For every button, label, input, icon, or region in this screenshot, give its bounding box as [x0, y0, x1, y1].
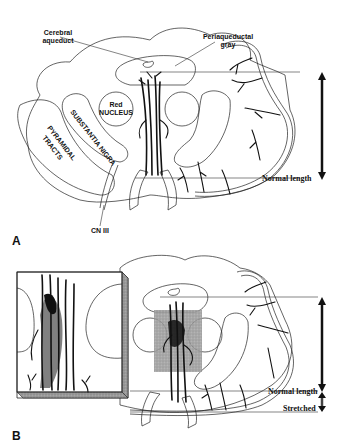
normal-length-arrow-b — [318, 297, 326, 392]
cerebral-aqueduct-shape — [143, 61, 153, 67]
cn-iii-nerve — [100, 165, 118, 210]
red-nucleus-label-1: Red — [109, 101, 122, 108]
cn-iii-pointer — [100, 205, 104, 226]
cerebral-aqueduct-shape-b — [168, 288, 179, 295]
substantia-nigra-right — [174, 91, 230, 167]
red-nucleus-right — [165, 92, 199, 126]
periaqueductal-label-1: Periaqueductal — [203, 33, 253, 41]
substantia-nigra-label: SUBSTANTIA NIGRA — [69, 108, 117, 167]
normal-length-arrow-a — [318, 72, 326, 180]
substantia-nigra-right-b — [194, 313, 248, 389]
stretched-arrow-b — [318, 392, 326, 412]
interpeduncular-left — [129, 170, 148, 210]
cerebral-aqueduct-label-1: Cerebral — [44, 29, 72, 36]
magnified-inset-box — [17, 272, 128, 398]
cn-iii-label: CN III — [91, 227, 109, 234]
periaqueductal-label-2: gray — [221, 41, 236, 49]
interpeduncular-left-b — [141, 392, 160, 426]
panel-a-label: A — [12, 234, 21, 248]
periaqueductal-gray-region-b — [143, 284, 208, 312]
stretched-label: Stretched — [283, 404, 316, 413]
panel-b: Normal length Stretched B — [12, 255, 326, 442]
midbrain-diagram: Cerebral aqueduct Periaqueductal gray Re… — [0, 0, 343, 442]
perforating-vessels-a — [139, 72, 168, 175]
cerebral-aqueduct-label-2: aqueduct — [42, 37, 74, 45]
normal-length-label-a: Normal length — [262, 174, 312, 183]
lateral-sulcus-inner — [195, 45, 288, 192]
normal-length-label-b: Normal length — [268, 387, 318, 396]
interpeduncular-right — [160, 170, 177, 210]
panel-a: Cerebral aqueduct Periaqueductal gray Re… — [12, 28, 326, 248]
periaqueductal-pointer — [175, 42, 215, 66]
red-nucleus-label-2: NUCLEUS — [99, 109, 133, 116]
panel-b-label: B — [12, 429, 21, 442]
